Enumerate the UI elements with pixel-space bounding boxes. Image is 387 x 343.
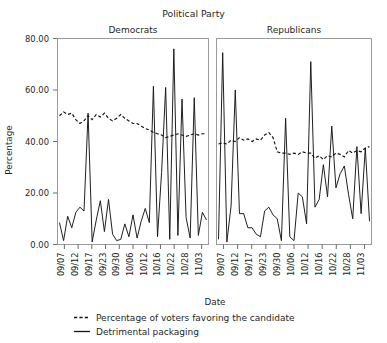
- x-tick-label: 09/12: [70, 253, 80, 277]
- x-tick-label: 09/23: [98, 253, 108, 277]
- x-tick-label: 09/12: [230, 252, 240, 276]
- chart-legend: Percentage of voters favoring the candid…: [74, 313, 295, 337]
- political-party-chart: Political Party Democrats Republicans Pe…: [0, 0, 387, 343]
- x-axis-title: Date: [204, 297, 225, 307]
- y-tick-label: 20.00: [25, 188, 49, 198]
- x-tick-label: 10/22: [328, 253, 338, 277]
- x-tick-label: 10/12: [300, 253, 310, 277]
- x-tick-label: 09/23: [258, 253, 268, 277]
- x-tick-label: 10/28: [342, 253, 352, 277]
- y-axis: 0.0020.0040.0060.0080.00: [25, 34, 57, 250]
- x-tick-label: 10/06: [286, 253, 296, 277]
- series-voters-favoring-republicans: [219, 132, 370, 159]
- chart-title: Political Party: [162, 8, 225, 19]
- legend-label-detrimental-packaging: Detrimental packaging: [96, 327, 199, 337]
- legend-label-voters-favoring: Percentage of voters favoring the candid…: [96, 313, 295, 323]
- panel-header-republicans: Republicans: [267, 25, 322, 35]
- x-axis-republicans: 09/0709/1209/1709/2309/3010/0610/1210/16…: [216, 245, 367, 277]
- plot-area-republicans: [219, 53, 370, 242]
- plot-area-democrats: [60, 49, 207, 242]
- series-detrimental-packaging-republicans: [219, 53, 370, 242]
- y-tick-label: 40.00: [25, 137, 49, 147]
- x-tick-label: 10/22: [166, 253, 176, 277]
- x-tick-label: 09/30: [272, 253, 282, 277]
- x-tick-label: 10/06: [125, 253, 135, 277]
- x-tick-label: 09/17: [244, 253, 254, 277]
- series-detrimental-packaging-democrats: [60, 49, 207, 242]
- x-tick-label: 09/07: [56, 253, 66, 277]
- x-tick-label: 10/28: [180, 253, 190, 277]
- x-tick-label: 09/30: [111, 253, 121, 277]
- x-tick-label: 11/03: [194, 253, 204, 277]
- x-tick-label: 10/16: [152, 253, 162, 277]
- y-tick-label: 80.00: [25, 34, 49, 44]
- x-axis-democrats: 09/0709/1209/1709/2309/3010/0610/1210/16…: [56, 245, 203, 277]
- chart-figure: Political Party Democrats Republicans Pe…: [0, 0, 387, 343]
- y-tick-label: 0.00: [30, 240, 49, 250]
- y-tick-label: 60.00: [25, 85, 49, 95]
- x-tick-label: 09/07: [216, 253, 226, 277]
- x-tick-label: 10/12: [139, 253, 149, 277]
- y-axis-title: Percentage: [4, 125, 14, 175]
- x-tick-label: 11/03: [356, 253, 366, 277]
- series-voters-favoring-democrats: [60, 112, 207, 138]
- panel-header-democrats: Democrats: [108, 25, 157, 35]
- x-tick-label: 10/16: [314, 253, 324, 277]
- x-tick-label: 09/17: [84, 253, 94, 277]
